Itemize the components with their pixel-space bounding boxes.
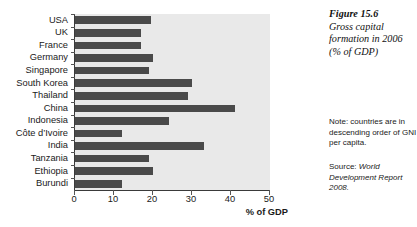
- bar-row: [75, 102, 270, 115]
- category-label: Indonesia: [0, 115, 71, 128]
- bar-row: [75, 178, 270, 191]
- x-axis-tick-label: 40: [225, 195, 235, 204]
- x-axis-tick-label: 30: [186, 195, 196, 204]
- x-axis-title: % of GDP: [0, 207, 288, 217]
- bar: [75, 130, 122, 138]
- category-label: Côte d’Ivoire: [0, 127, 71, 140]
- bar: [75, 142, 204, 150]
- bar-row: [75, 64, 270, 77]
- bar: [75, 117, 169, 125]
- category-label: South Korea: [0, 77, 71, 90]
- figure-note: Note: countries are in descending order …: [329, 117, 417, 149]
- figure-title: Gross capital formation in 2006 (% of GD…: [329, 21, 415, 59]
- figure-caption-block: Figure 15.6 Gross capital formation in 2…: [329, 8, 415, 58]
- category-axis-labels: USA UK France Germany Singapore South Ko…: [0, 14, 71, 190]
- x-axis-tick-label: 20: [147, 195, 157, 204]
- bar: [75, 54, 153, 62]
- bar: [75, 180, 122, 188]
- category-label: UK: [0, 27, 71, 40]
- category-label: China: [0, 102, 71, 115]
- category-label: Thailand: [0, 89, 71, 102]
- bar: [75, 167, 153, 175]
- bar-chart: USA UK France Germany Singapore South Ko…: [0, 0, 300, 227]
- bar-row: [75, 165, 270, 178]
- bar-row: [75, 77, 270, 90]
- bar: [75, 16, 151, 24]
- x-axis-tick-label: 50: [264, 195, 274, 204]
- figure-note-block: Note: countries are in descending order …: [329, 117, 417, 149]
- category-label: Germany: [0, 52, 71, 65]
- category-label: Singapore: [0, 64, 71, 77]
- bar-row: [75, 140, 270, 153]
- x-axis-tick-label: 0: [71, 195, 76, 204]
- bar: [75, 79, 192, 87]
- bar-row: [75, 89, 270, 102]
- bar-series: [75, 14, 270, 190]
- bar: [75, 29, 141, 37]
- figure-number: Figure 15.6: [329, 8, 415, 21]
- bar-row: [75, 127, 270, 140]
- category-label: Burundi: [0, 178, 71, 191]
- bar: [75, 155, 149, 163]
- bar-row: [75, 152, 270, 165]
- x-axis-tick-label: 10: [108, 195, 118, 204]
- source-prefix: Source:: [329, 162, 357, 171]
- bar: [75, 67, 149, 75]
- plot-area: [74, 14, 270, 190]
- bar-row: [75, 39, 270, 52]
- category-label: France: [0, 39, 71, 52]
- category-label: Ethiopia: [0, 165, 71, 178]
- bar-row: [75, 27, 270, 40]
- category-label: USA: [0, 14, 71, 27]
- bar: [75, 105, 235, 113]
- bar-row: [75, 115, 270, 128]
- bar-row: [75, 14, 270, 27]
- category-label: India: [0, 140, 71, 153]
- bar: [75, 92, 188, 100]
- bar: [75, 42, 141, 50]
- category-label: Tanzania: [0, 152, 71, 165]
- bar-row: [75, 52, 270, 65]
- figure-source-block: Source: World Development Report 2008.: [329, 162, 417, 194]
- figure-container: USA UK France Germany Singapore South Ko…: [0, 0, 417, 227]
- figure-source: Source: World Development Report 2008.: [329, 162, 417, 194]
